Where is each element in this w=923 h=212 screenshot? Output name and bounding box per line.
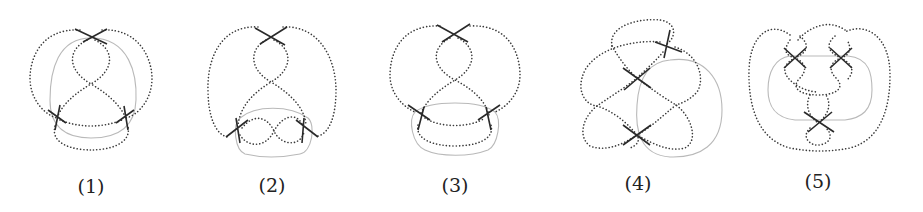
panel-2-label: (2) — [259, 174, 286, 196]
panel-1-label: (1) — [78, 175, 105, 197]
panel-3-diagram — [390, 24, 520, 155]
panel-3-label: (3) — [442, 174, 469, 196]
knot-diagram-figure: (1) (2) (3) (4) (5) — [0, 0, 923, 212]
panel-2-diagram — [208, 27, 336, 157]
panel-1-diagram — [30, 29, 152, 150]
panel-4-diagram — [581, 20, 722, 157]
panel-5-label: (5) — [805, 170, 832, 192]
panel-5-diagram — [749, 25, 890, 151]
panel-4-label: (4) — [625, 172, 652, 194]
